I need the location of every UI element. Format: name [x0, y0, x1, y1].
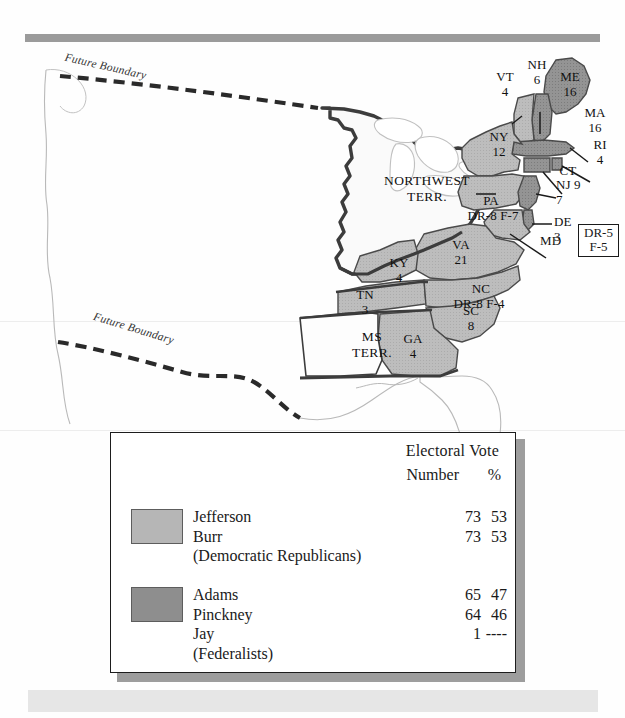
pacific-coast-outline: [45, 70, 71, 424]
state-label-TN-abbr: TN: [352, 288, 378, 302]
state-label-MA-votes: 16: [580, 121, 610, 135]
maryland-split-line1: DR-5: [584, 226, 613, 240]
legend-candidates-federalists: Adams Pinckney Jay (Federalists): [193, 585, 273, 663]
state-label-PA-split: DR-8 F-7: [458, 209, 528, 223]
state-label-VT-votes: 4: [492, 85, 518, 99]
state-label-PA-abbr: PA: [478, 194, 504, 208]
state-label-MD-abbr: MD: [540, 234, 572, 248]
state-label-GA-votes: 4: [400, 347, 426, 361]
legend-percent-pinckney: 46: [447, 605, 507, 625]
maryland-split-vote-box: DR-5 F-5: [578, 224, 619, 257]
state-label-KY-votes: 4: [386, 271, 412, 285]
gulf-inlet-outline: [356, 378, 418, 388]
state-label-NY-abbr: NY: [486, 130, 512, 144]
legend-party-federalists: (Federalists): [193, 644, 273, 664]
legend-header-number: Number: [407, 466, 459, 484]
state-label-ME-abbr: ME: [556, 70, 584, 84]
state-label-NY-votes: 12: [486, 145, 512, 159]
legend-percents-federalists: 47 46 ----: [447, 585, 507, 644]
legend-candidate-jefferson: Jefferson: [193, 507, 361, 527]
legend-party-democratic-republicans: (Democratic Republicans): [193, 546, 361, 566]
legend-swatch-democratic-republicans[interactable]: [131, 509, 183, 544]
northwest-territory-label-line1: NORTHWEST: [372, 174, 482, 188]
map-vector-artwork: [0, 42, 625, 432]
state-VT: [514, 94, 534, 144]
gulf-coast-outline: [300, 376, 420, 420]
legend-percent-jay: ----: [447, 624, 507, 644]
mississippi-territory-shape: [300, 312, 382, 376]
mississippi-territory-label-line1: MS: [342, 330, 402, 344]
legend-header-percent: %: [488, 466, 501, 484]
state-label-TN-votes: 3: [352, 303, 378, 317]
state-NH: [532, 94, 552, 142]
state-label-NH-votes: 6: [524, 73, 550, 87]
scan-artifact-bottom-bar: [28, 690, 598, 712]
state-label-ME-votes: 16: [556, 85, 584, 99]
legend-candidate-pinckney: Pinckney: [193, 605, 273, 625]
document-page: Future Boundary Future Boundary NORTHWES…: [0, 0, 625, 718]
state-label-MA-abbr: MA: [580, 106, 610, 120]
state-label-NH-abbr: NH: [524, 58, 550, 72]
legend-header-electoral-vote: Electoral Vote: [406, 442, 499, 460]
state-label-RI-abbr: RI: [588, 138, 612, 152]
legend-percent-adams: 47: [447, 585, 507, 605]
state-label-KY-abbr: KY: [386, 256, 412, 270]
legend-candidates-democratic-republicans: Jefferson Burr (Democratic Republicans): [193, 507, 361, 566]
leader-line-NJ: [536, 194, 556, 198]
state-label-SC-votes: 8: [458, 319, 484, 333]
state-label-CT-abbr: CT: [556, 164, 580, 178]
legend-swatch-federalists[interactable]: [131, 587, 183, 622]
legend-percent-burr: 53: [447, 527, 507, 547]
state-label-NJ-votes: 7: [556, 193, 576, 207]
legend-candidate-burr: Burr: [193, 527, 361, 547]
leader-line-MA: [570, 148, 588, 162]
election-map[interactable]: Future Boundary Future Boundary NORTHWES…: [0, 42, 625, 432]
state-label-NJ: NJ 9: [556, 178, 596, 192]
legend-candidate-jay: Jay: [193, 624, 273, 644]
scan-artifact-top-bar: [25, 34, 600, 42]
state-label-VA-abbr: VA: [448, 238, 474, 252]
state-label-VT-abbr: VT: [492, 70, 518, 84]
legend-candidate-adams: Adams: [193, 585, 273, 605]
state-label-NC-abbr: NC: [466, 282, 496, 296]
florida-outline: [420, 376, 501, 432]
northwest-territory-label-line2: TERR.: [372, 190, 482, 204]
legend-percents-democratic-republicans: 53 53: [447, 507, 507, 546]
mississippi-territory-label-line2: TERR.: [342, 346, 402, 360]
legend-percent-jefferson: 53: [447, 507, 507, 527]
state-label-RI-votes: 4: [588, 153, 612, 167]
future-boundary-north-line: [60, 76, 318, 108]
state-label-VA-votes: 21: [448, 253, 474, 267]
future-boundary-south-line: [58, 342, 300, 418]
state-label-NC-split: DR-8 F-4: [440, 297, 518, 311]
maryland-split-line2: F-5: [584, 240, 613, 254]
state-CT: [524, 158, 550, 172]
state-label-GA-abbr: GA: [400, 332, 426, 346]
electoral-vote-legend[interactable]: Electoral Vote Number % Jefferson Burr (…: [110, 432, 516, 673]
